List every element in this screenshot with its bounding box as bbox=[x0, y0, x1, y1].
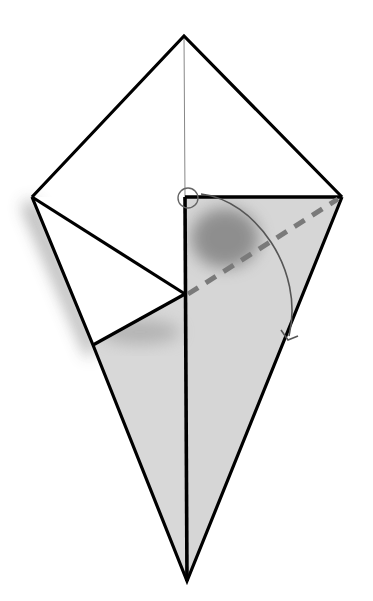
outline bbox=[32, 36, 342, 581]
center-crease-line bbox=[184, 36, 185, 197]
origami-diagram bbox=[0, 0, 373, 601]
